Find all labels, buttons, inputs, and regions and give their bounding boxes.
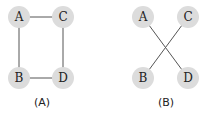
- node-a: A: [8, 6, 30, 28]
- svg-text:C: C: [183, 10, 192, 24]
- node-d: D: [52, 67, 74, 89]
- svg-text:D: D: [58, 71, 68, 85]
- node-c: C: [52, 6, 74, 28]
- node-c: C: [177, 6, 199, 28]
- svg-text:D: D: [183, 71, 193, 85]
- svg-text:A: A: [138, 10, 148, 24]
- panel-b: A C B D (B): [132, 6, 199, 109]
- svg-text:B: B: [139, 71, 148, 85]
- svg-text:B: B: [15, 71, 24, 85]
- svg-text:A: A: [14, 10, 24, 24]
- node-a: A: [132, 6, 154, 28]
- graph-diagram: A C B D (A) A C B D (B): [0, 0, 209, 113]
- node-b: B: [132, 67, 154, 89]
- panel-a-caption: (A): [34, 96, 50, 109]
- panel-b-caption: (B): [158, 96, 174, 109]
- panel-a: A C B D (A): [8, 6, 74, 109]
- node-d: D: [177, 67, 199, 89]
- svg-text:C: C: [58, 10, 67, 24]
- node-b: B: [8, 67, 30, 89]
